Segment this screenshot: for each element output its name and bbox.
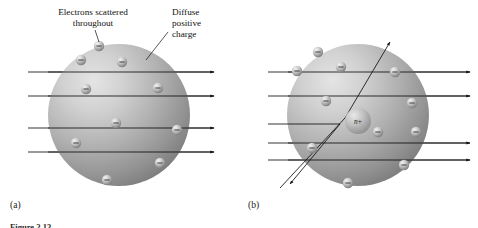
electron [321,96,331,106]
electron [155,158,165,168]
electron [76,55,86,65]
electron [292,66,302,76]
electron [336,62,346,72]
electron [399,160,409,170]
electron [390,67,400,77]
electron [407,98,417,108]
electron [81,84,91,94]
electron [71,138,81,148]
electrons-callout-line-1: Electrons scattered [58,7,128,17]
electron [153,83,163,93]
panel-label-b: (b) [248,200,259,211]
positive-charge-callout-line-2: positive [172,18,201,28]
electron [172,125,182,135]
positive-charge-callout-line-3: charge [172,29,196,39]
electron [313,47,323,57]
nucleus-label-sign: + [358,117,362,126]
electrons-callout-leader [95,30,99,42]
panel-b: n+ (b) [248,42,470,211]
figure-container: Electrons scattered throughout Diffuse p… [0,0,478,228]
electron [102,175,112,185]
electron [343,178,353,188]
figure-caption-clip: Figure 2.13 [0,219,478,228]
electron [373,127,383,137]
panel-a: Electrons scattered throughout Diffuse p… [10,7,214,211]
electron [411,127,421,137]
electron [111,118,121,128]
positive-charge-callout-line-1: Diffuse [172,7,199,17]
panel-label-a: (a) [10,200,21,211]
electrons-callout-line-2: throughout [73,18,114,28]
electron [307,143,317,153]
nucleus-label: n+ [354,117,362,126]
electron [94,41,104,51]
atomic-model-diagram: Electrons scattered throughout Diffuse p… [0,0,478,228]
panel-b-nucleus: n+ [345,108,371,134]
electron [117,57,127,67]
figure-caption: Figure 2.13 [10,222,51,228]
